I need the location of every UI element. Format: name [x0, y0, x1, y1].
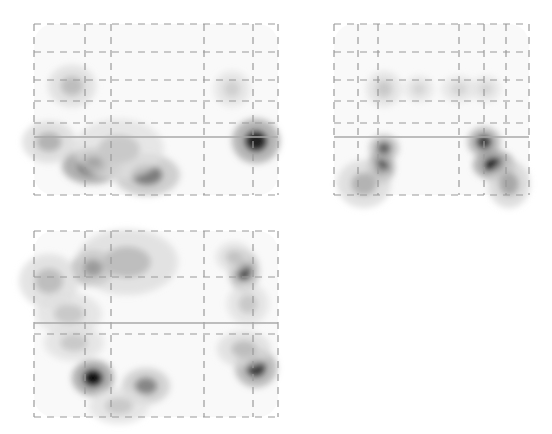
activation-blob — [60, 335, 88, 352]
activation-blob — [238, 294, 258, 314]
activation-blob — [245, 131, 267, 152]
activation-blob — [105, 398, 133, 415]
axial-projection — [33, 230, 279, 418]
activation-blob — [412, 83, 426, 96]
activation-blob — [61, 76, 83, 96]
sagittal-projection — [33, 23, 279, 196]
coronal-projection — [333, 23, 530, 196]
activation-blob — [224, 81, 241, 98]
activation-blob — [35, 268, 63, 293]
activation-blob — [98, 135, 140, 163]
coronal-plot — [333, 23, 530, 196]
activation-blob — [103, 247, 151, 278]
activation-blob — [36, 132, 61, 152]
activation-blob — [226, 250, 243, 264]
sagittal-plot — [33, 23, 279, 196]
activation-blob — [499, 173, 519, 195]
activation-blob — [135, 378, 157, 395]
activation-blob — [351, 173, 376, 195]
activation-blob — [479, 83, 493, 96]
activation-blob — [377, 142, 391, 155]
activation-blob — [54, 304, 85, 324]
axial-plot — [33, 230, 279, 418]
activation-blob — [83, 370, 103, 387]
